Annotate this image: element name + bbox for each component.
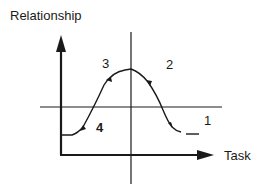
y-axis-label: Relationship (10, 8, 82, 23)
region-label-4: 4 (96, 120, 103, 135)
x-axis-arrow-icon (197, 150, 214, 160)
y-axis-arrow-icon (56, 35, 66, 52)
curve-arrow-icon (168, 122, 173, 128)
curve-arrow-icon (146, 80, 152, 86)
region-label-1: 1 (204, 113, 211, 128)
leadership-curve (61, 69, 181, 135)
region-label-3: 3 (102, 56, 109, 71)
region-label-2: 2 (166, 57, 173, 72)
situational-leadership-diagram: Relationship Task 3 2 4 1 (0, 0, 268, 190)
curve-arrow-icon (80, 125, 86, 131)
x-axis-label: Task (224, 148, 251, 163)
